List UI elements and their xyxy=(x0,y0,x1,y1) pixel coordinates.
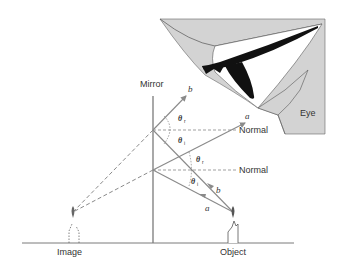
svg-text:i: i xyxy=(184,140,185,146)
theta-lower-i: θ i xyxy=(191,177,198,187)
ray-a-arrowhead xyxy=(199,194,206,198)
svg-text:i: i xyxy=(197,181,198,187)
ray-a-in-label: a xyxy=(205,203,210,213)
ray-b-incident xyxy=(153,130,233,212)
svg-text:θ: θ xyxy=(178,114,183,123)
svg-text:θ: θ xyxy=(178,136,183,145)
theta-upper-r: θ r xyxy=(178,114,186,124)
eye-illustration: Eye xyxy=(160,19,325,134)
theta-lower-r: θ r xyxy=(196,155,204,165)
theta-upper-i: θ i xyxy=(178,136,185,146)
eye-label: Eye xyxy=(300,108,316,118)
normal-lower-label: Normal xyxy=(239,165,268,175)
object-flame xyxy=(232,206,235,218)
mirror-label: Mirror xyxy=(140,79,164,89)
object-label: Object xyxy=(220,247,247,257)
image-candle xyxy=(69,206,79,243)
virtual-ray-b xyxy=(73,130,153,212)
ray-b-out-label: b xyxy=(188,84,193,94)
ray-a-out-label: a xyxy=(245,111,250,121)
ray-b-in-label: b xyxy=(216,185,221,195)
reflection-diagram: Eye Mirror Normal Normal b a b a θ r θ i… xyxy=(0,0,342,272)
svg-text:θ: θ xyxy=(191,177,196,186)
object-candle xyxy=(228,206,238,243)
svg-text:r: r xyxy=(184,118,186,124)
normal-upper-label: Normal xyxy=(239,125,268,135)
svg-text:r: r xyxy=(202,159,204,165)
svg-text:θ: θ xyxy=(196,155,201,164)
virtual-ray-a xyxy=(73,170,153,212)
image-label: Image xyxy=(57,247,82,257)
image-flame xyxy=(72,206,75,218)
image-body xyxy=(69,224,79,243)
object-body xyxy=(228,221,238,243)
